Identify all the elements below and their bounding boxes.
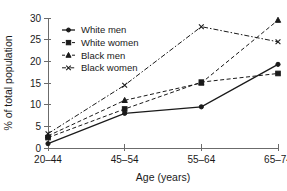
x-tick-label: 20–44 — [34, 154, 62, 165]
x-tick-label: 65–74 — [264, 154, 287, 165]
data-point-marker-circle — [123, 111, 127, 115]
data-point-marker-circle — [67, 28, 71, 32]
data-point-marker-triangle — [66, 52, 71, 57]
chart-figure: 051015202530 20–4445–5455–6465–74 Age (y… — [0, 0, 287, 191]
data-point-marker-x — [199, 24, 204, 29]
x-axis-title: Age (years) — [136, 171, 190, 183]
x-tick-label: 55–64 — [187, 154, 215, 165]
y-tick-label: 30 — [30, 13, 42, 24]
legend-item[interactable]: White men — [62, 24, 126, 35]
legend-label: Black women — [81, 62, 138, 73]
y-tick-label: 0 — [35, 143, 41, 154]
y-tick-label: 5 — [35, 121, 41, 132]
chart-legend: White menWhite womenBlack menBlack women — [62, 24, 139, 73]
series-line — [48, 64, 278, 143]
data-point-marker-square — [276, 71, 281, 76]
y-tick-label: 15 — [30, 78, 42, 89]
data-point-marker-triangle — [275, 17, 280, 22]
line-chart: 051015202530 20–4445–5455–6465–74 Age (y… — [0, 0, 287, 191]
x-axis-ticks: 20–4445–5455–6465–74 — [34, 144, 287, 165]
legend-item[interactable]: White women — [62, 37, 139, 48]
data-point-marker-triangle — [122, 97, 127, 102]
data-point-marker-x — [66, 66, 71, 71]
y-axis-title: % of total population — [2, 35, 14, 130]
data-point-marker-circle — [199, 105, 203, 109]
data-point-marker-circle — [46, 142, 50, 146]
legend-label: Black men — [81, 50, 125, 61]
y-tick-label: 25 — [30, 34, 42, 45]
legend-item[interactable]: Black men — [62, 50, 125, 61]
data-point-marker-circle — [276, 62, 280, 66]
legend-label: White men — [81, 24, 126, 35]
series-white-men — [46, 62, 280, 145]
data-point-marker-square — [66, 40, 70, 44]
y-tick-label: 10 — [30, 99, 42, 110]
legend-label: White women — [81, 37, 139, 48]
data-point-marker-x — [122, 83, 127, 88]
data-point-marker-square — [122, 107, 127, 112]
series-white-women — [46, 71, 281, 140]
x-tick-label: 45–54 — [111, 154, 139, 165]
y-tick-label: 20 — [30, 56, 42, 67]
legend-item[interactable]: Black women — [62, 62, 138, 73]
